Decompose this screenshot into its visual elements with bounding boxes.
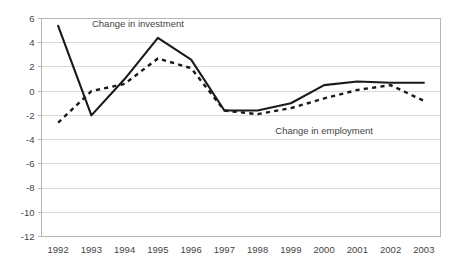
chart-plot-wrapper: 6420-2-4-6-8-10-12 199219931994199519961… [0,0,462,278]
plot-area-border [42,19,441,237]
x-axis-tick-label: 1997 [214,244,235,255]
x-axis-tick-label: 1992 [48,244,69,255]
data-series-group [58,26,424,123]
x-axis-tick-label: 2003 [413,244,434,255]
series-annotations: Change in investmentChange in employment [92,18,373,136]
y-axis-tick-label: -12 [21,231,35,242]
y-axis-tick-label: 2 [29,61,34,72]
y-axis-tick-label: -8 [26,182,34,193]
x-axis-tick-label: 1998 [247,244,268,255]
series-label: Change in employment [275,125,373,136]
chart-container: 6420-2-4-6-8-10-12 199219931994199519961… [0,0,462,278]
y-axis-tick-label: -10 [21,207,35,218]
x-axis-tick-label: 2001 [347,244,368,255]
x-axis-tick-label: 1994 [114,244,135,255]
x-axis-tick-labels: 1992199319941995199619971998199920002001… [48,244,435,255]
y-axis-tick-label: 4 [29,37,34,48]
y-axis-tick-label: 6 [29,13,34,24]
y-axis-tick-label: 0 [29,86,34,97]
line-chart: 6420-2-4-6-8-10-12 199219931994199519961… [0,0,462,278]
x-axis-tick-label: 1995 [147,244,168,255]
series-line-solid [58,26,424,116]
series-label: Change in investment [92,18,184,29]
gridlines [38,19,441,237]
x-axis-tick-label: 1996 [181,244,202,255]
y-axis-tick-label: -2 [26,110,34,121]
y-axis-tick-label: -6 [26,158,34,169]
x-axis-tick-label: 1993 [81,244,102,255]
y-axis-tick-label: -4 [26,134,34,145]
x-axis-tick-label: 2002 [380,244,401,255]
x-axis-tick-label: 1999 [280,244,301,255]
y-axis-tick-labels: 6420-2-4-6-8-10-12 [21,13,35,242]
x-axis-tick-label: 2000 [314,244,335,255]
